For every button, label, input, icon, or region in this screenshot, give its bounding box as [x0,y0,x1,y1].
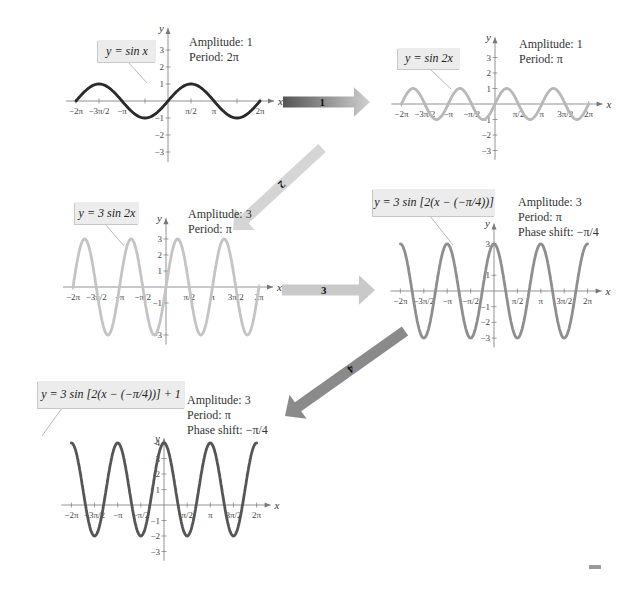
x-axis-arrow-icon [268,99,274,104]
x-tick-label: −2π [64,510,79,520]
y-tick-label: 3 [487,53,492,63]
x-axis-label: x [606,98,612,110]
x-tick-label: −π [113,510,123,520]
leader-line [42,408,62,436]
arrow-label: 1 [319,96,325,108]
y-axis-arrow-icon [164,218,169,224]
y-axis-label: y [156,212,162,224]
x-tick-label: −π/2 [462,296,479,306]
leader-line [105,224,124,246]
x-axis-arrow-icon [596,289,602,294]
transformation-arrows: 1234 [223,87,414,428]
y-tick-label: −1 [150,516,160,526]
arrow-1: 1 [283,87,370,117]
y-axis-label: y [158,22,164,34]
x-tick-label: −π [442,296,452,306]
y-tick-label: −3 [150,547,160,557]
arrow-icon [283,87,370,117]
y-tick-label: −1 [152,298,162,308]
y-tick-label: 1 [156,485,161,495]
x-tick-label: 2π [255,106,265,116]
y-tick-label: −2 [154,130,164,140]
y-tick-label: 2 [487,68,492,78]
graph-g5: xy−2π−3π/2−π−π/2π/2π3π/22π4321−1−2−3 [61,432,279,560]
y-tick-label: 2 [160,62,165,72]
y-tick-label: −3 [154,147,164,157]
x-tick-label: π [212,106,217,116]
equation-box-g2 [398,48,460,69]
x-tick-label: −2π [393,296,408,306]
x-tick-label: π/2 [512,296,524,306]
x-tick-label: −2π [66,292,81,302]
x-axis-arrow-icon [267,285,273,290]
leader-line [128,62,147,83]
leader-line [430,69,451,89]
x-axis-arrow-icon [265,503,271,508]
equation-box-g4 [373,189,495,216]
x-axis-arrow-icon [597,102,603,107]
x-tick-label: −2π [394,109,409,119]
equation-box-g3 [75,202,139,224]
x-tick-label: 2π [252,510,262,520]
y-tick-label: 2 [158,250,163,260]
transformation-diagram: 1234 xy−2π−3π/2−ππ/2π2π321−1−2−3xy−2π−3π… [0,0,640,592]
y-tick-label: 3 [160,45,165,55]
y-tick-label: 3 [158,234,163,244]
arrow-icon [223,137,332,241]
y-tick-label: −2 [480,317,490,327]
y-axis-arrow-icon [166,28,171,34]
x-axis-label: x [276,281,282,293]
y-axis-label: y [485,31,491,43]
y-tick-label: −3 [480,333,490,343]
leader-line [430,216,453,245]
x-tick-label: 2π [583,296,593,306]
x-tick-label: −3π/2 [88,106,109,116]
arrow-label: 3 [321,284,327,296]
x-tick-label: π [540,109,545,119]
x-tick-label: −2π [69,106,84,116]
x-tick-label: −π [117,106,127,116]
x-axis-label: x [274,499,280,511]
y-axis-arrow-icon [492,223,497,229]
y-tick-label: −3 [481,146,491,156]
y-tick-label: −2 [150,531,160,541]
equation-box-g1 [98,40,156,62]
y-axis-arrow-icon [493,37,498,43]
x-axis-label: x [605,285,611,297]
x-tick-label: π [539,296,544,306]
x-tick-label: −3π/2 [413,296,434,306]
y-axis-label: y [484,217,490,229]
y-tick-label: −2 [481,130,491,140]
arrow-icon [276,319,413,428]
arrow-3: 3 [282,275,375,305]
x-tick-label: π/2 [185,106,197,116]
y-tick-label: 1 [487,84,492,94]
page-indicator [589,565,601,569]
graph-g4: xy−2π−3π/2−π−π/2π/2π3π/22π31−1−2−3 [390,217,610,347]
arrow-4: 4 [276,319,413,428]
x-tick-label: π [208,510,213,520]
equation-box-g5 [38,381,185,408]
x-tick-label: 3π/2 [556,296,572,306]
arrow-icon [282,275,375,305]
y-tick-label: 1 [160,79,165,89]
y-tick-label: −1 [480,302,490,312]
x-tick-label: π/2 [181,510,193,520]
arrow-2: 2 [223,137,332,241]
x-axis-label: x [277,95,283,107]
graph-g3: xy−2π−3π/2−π−π/2π/2π3π/22π321−1−3 [63,212,282,344]
y-tick-label: 1 [158,266,163,276]
